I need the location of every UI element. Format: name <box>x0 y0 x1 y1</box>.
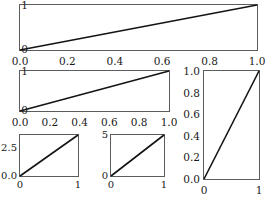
data-line-y-equals-5x <box>111 135 164 176</box>
xtick-label: 0 <box>108 180 114 190</box>
xtick-label: 0.6 <box>101 117 118 128</box>
ytick-label: 0 <box>14 105 28 116</box>
ytick-label: 0.6 <box>178 109 200 120</box>
ytick-label: 0.0 <box>0 171 17 181</box>
ytick-label: 2.5 <box>0 143 17 153</box>
xtick-label: 0.2 <box>59 56 76 67</box>
ytick-label: 0.8 <box>178 87 200 98</box>
ytick-label: 0 <box>14 44 28 55</box>
xtick-label: 1 <box>256 185 263 196</box>
plot-bottom-left-small: 2.5 0.0 0 1 <box>19 134 79 177</box>
xtick-label: 0.4 <box>71 117 88 128</box>
data-line-y-equals-x <box>20 71 169 111</box>
data-line-y-equals-x <box>20 5 257 50</box>
xtick-label: 0 <box>17 180 23 190</box>
ytick-label: 0 <box>96 171 108 181</box>
xtick-label: 1 <box>75 180 81 190</box>
xtick-label: 1.0 <box>249 56 266 67</box>
ytick-label: 1 <box>14 66 28 77</box>
plot-top-wide: 1 0 0.0 0.2 0.4 0.6 0.8 1.0 <box>19 4 258 51</box>
ytick-label: 1 <box>14 0 28 10</box>
plot-right-tall: 1.0 0.8 0.6 0.4 0.2 0.0 0 1 <box>203 70 260 180</box>
plot-line-area <box>19 134 79 177</box>
xtick-label: 0.8 <box>131 117 148 128</box>
plot-line-area <box>203 70 260 180</box>
xtick-label: 0.0 <box>12 117 29 128</box>
xtick-label: 0.6 <box>154 56 171 67</box>
xtick-label: 0.8 <box>201 56 218 67</box>
ytick-label: 1.0 <box>178 66 200 77</box>
data-line-y-equals-x <box>204 71 259 179</box>
plot-line-area <box>19 70 170 112</box>
xtick-label: 0.2 <box>41 117 58 128</box>
data-line-y-equals-3x <box>20 135 78 176</box>
plot-line-area <box>19 4 258 51</box>
plot-line-area <box>110 134 165 177</box>
plot-middle-wide: 1 0 0.0 0.2 0.4 0.6 0.8 1.0 <box>19 70 170 112</box>
ytick-label: 0.2 <box>178 152 200 163</box>
ytick-label: 0.4 <box>178 131 200 142</box>
ytick-label: 5 <box>96 130 108 140</box>
plot-bottom-middle-small: 5 0 0 1 <box>110 134 165 177</box>
xtick-label: 1 <box>161 180 167 190</box>
figure-canvas: 1 0 0.0 0.2 0.4 0.6 0.8 1.0 1 0 0.0 0.2 … <box>0 0 266 206</box>
xtick-label: 0 <box>201 185 208 196</box>
ytick-label: 0.0 <box>178 174 200 185</box>
xtick-label: 1.0 <box>161 117 178 128</box>
xtick-label: 0.4 <box>106 56 123 67</box>
